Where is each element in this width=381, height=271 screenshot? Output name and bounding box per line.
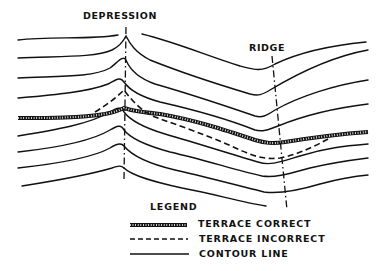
depression-label: DEPRESSION bbox=[83, 10, 157, 21]
legend-symbols bbox=[130, 225, 189, 254]
legend-label-terrace-incorrect: TERRACE INCORRECT bbox=[199, 233, 325, 244]
ridge-axis bbox=[272, 56, 287, 210]
ridge-label: RIDGE bbox=[249, 42, 285, 53]
legend-label-contour-line: CONTOUR LINE bbox=[199, 248, 289, 259]
legend-label-terrace-correct: TERRACE CORRECT bbox=[198, 218, 311, 229]
contour-diagram bbox=[0, 0, 381, 271]
legend-title: LEGEND bbox=[150, 201, 197, 212]
depression-axis bbox=[124, 27, 126, 180]
